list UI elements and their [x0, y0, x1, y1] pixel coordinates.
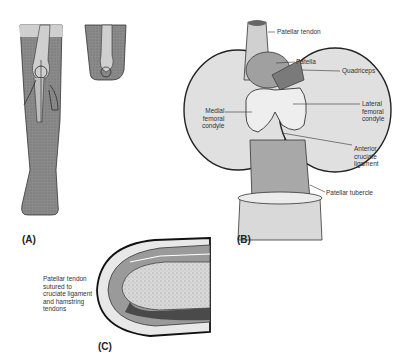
- panel-b-knee-illustration: [184, 20, 391, 240]
- panel-label-a: (A): [22, 234, 36, 245]
- label-sutured-note: Patellar tendon sutured to cruciate liga…: [43, 275, 92, 313]
- panel-c-section-illustration: [97, 238, 210, 336]
- label-quadriceps: Quadriceps: [342, 67, 375, 75]
- panel-label-c: (C): [98, 341, 112, 352]
- label-patellar-tendon: Patellar tendon: [277, 28, 321, 36]
- label-patella: Patella: [296, 58, 316, 66]
- panel-label-b: (B): [237, 234, 251, 245]
- label-anterior-cruciate-ligament: Anterior cruciate ligament: [354, 145, 379, 168]
- label-patellar-tubercle: Patellar tubercle: [326, 189, 373, 197]
- label-lateral-femoral-condyle: Lateral femoral condyle: [362, 100, 384, 123]
- panel-a-leg-illustration: [20, 25, 126, 215]
- label-medial-femoral-condyle: Medial femoral condyle: [202, 107, 224, 130]
